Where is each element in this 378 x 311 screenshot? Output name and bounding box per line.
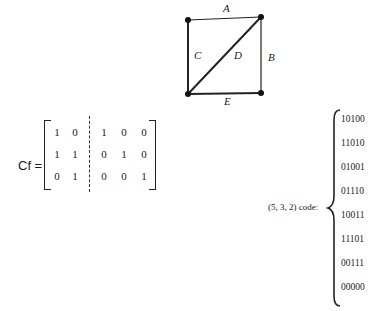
edge-label-c: C bbox=[194, 49, 201, 61]
matrix-cell: 0 bbox=[139, 148, 149, 160]
matrix-cell: 1 bbox=[52, 126, 62, 138]
edge-label-e: E bbox=[224, 95, 231, 107]
codeword: 01110 bbox=[341, 186, 364, 196]
codeword: 00111 bbox=[341, 258, 364, 268]
matrix-cell: 0 bbox=[99, 170, 109, 182]
matrix-cell: 1 bbox=[70, 148, 80, 160]
matrix-cell: 1 bbox=[52, 148, 62, 160]
matrix-cell: 1 bbox=[99, 126, 109, 138]
matrix-cell: 0 bbox=[139, 126, 149, 138]
generator-matrix: 1 0 1 0 0 1 1 0 1 0 0 1 0 0 1 bbox=[44, 120, 156, 190]
matrix-cell: 0 bbox=[119, 170, 129, 182]
matrix-label: Cf = bbox=[18, 158, 42, 173]
matrix-cell: 0 bbox=[52, 170, 62, 182]
right-bracket bbox=[149, 120, 156, 190]
edge-label-b: B bbox=[268, 51, 275, 63]
codeword: 11101 bbox=[341, 234, 364, 244]
edge-label-d: D bbox=[234, 49, 242, 61]
edge-label-a: A bbox=[223, 2, 230, 14]
codeword: 11010 bbox=[341, 138, 364, 148]
matrix-cell: 0 bbox=[70, 126, 80, 138]
matrix-cell: 1 bbox=[70, 170, 80, 182]
matrix-cell: 0 bbox=[119, 126, 129, 138]
partition-line bbox=[89, 116, 90, 192]
matrix-cell: 0 bbox=[99, 148, 109, 160]
code-label: (5, 3, 2) code: bbox=[268, 202, 318, 212]
codeword: 01001 bbox=[341, 162, 365, 172]
codeword: 00000 bbox=[341, 282, 365, 292]
matrix-cell: 1 bbox=[139, 170, 149, 182]
graph-diagram: A B C D E bbox=[180, 5, 280, 105]
matrix-cell: 1 bbox=[119, 148, 129, 160]
codeword: 10011 bbox=[341, 210, 364, 220]
codeword: 10100 bbox=[341, 114, 365, 124]
left-bracket bbox=[44, 120, 51, 190]
